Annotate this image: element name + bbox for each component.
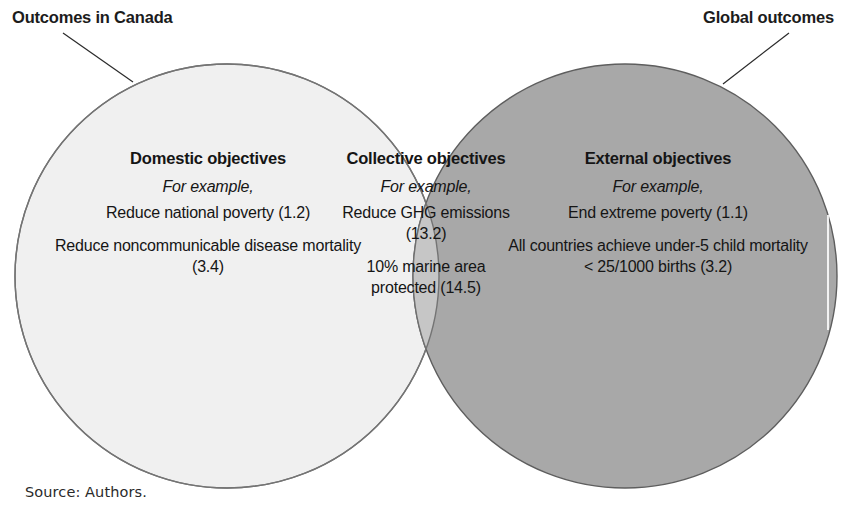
domestic-heading: Domestic objectives (48, 148, 368, 168)
collective-item-2: 10% marine area protected (14.5) (337, 256, 515, 298)
leader-line-right (723, 33, 789, 84)
external-item-2: All countries achieve under-5 child mort… (508, 235, 808, 277)
collective-example-label: For example, (337, 177, 515, 197)
source-note: Source: Authors. (25, 484, 147, 500)
callout-label-global-outcomes: Global outcomes (703, 8, 834, 27)
column-domestic-objectives: Domestic objectives For example, Reduce … (48, 148, 368, 277)
leader-line-left (63, 33, 133, 82)
collective-item-1: Reduce GHG emissions (13.2) (337, 202, 515, 244)
venn-diagram-figure: Outcomes in Canada Global outcomes Domes… (0, 0, 853, 519)
external-heading: External objectives (508, 148, 808, 168)
external-item-1: End extreme poverty (1.1) (508, 202, 808, 223)
domestic-item-2: Reduce noncommunicable disease mortality… (48, 235, 368, 277)
external-example-label: For example, (508, 177, 808, 197)
domestic-item-1: Reduce national poverty (1.2) (48, 202, 368, 223)
domestic-example-label: For example, (48, 177, 368, 197)
collective-heading: Collective objectives (337, 148, 515, 168)
column-external-objectives: External objectives For example, End ext… (508, 148, 808, 277)
callout-label-outcomes-in-canada: Outcomes in Canada (12, 8, 173, 27)
column-collective-objectives: Collective objectives For example, Reduc… (337, 148, 515, 298)
